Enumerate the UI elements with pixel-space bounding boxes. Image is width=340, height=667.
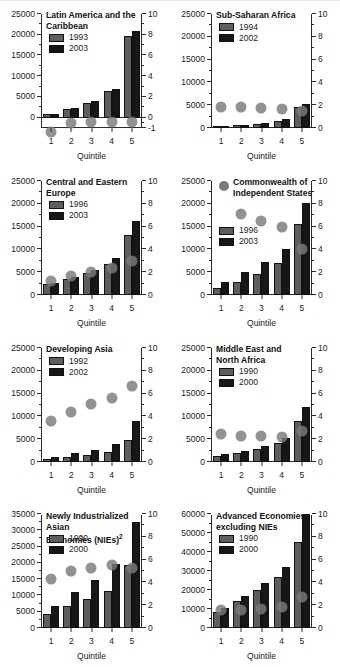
bar (83, 599, 91, 628)
right-y-tick-label: 4 (148, 72, 153, 81)
right-y-tick-label: 0 (318, 624, 323, 633)
x-tick (131, 128, 132, 132)
x-axis-title: Quintile (211, 652, 312, 661)
bar-group (83, 4, 99, 128)
right-y-tick-label: 2 (318, 268, 323, 277)
right-y-tick-minor (142, 358, 144, 359)
x-tick (131, 628, 132, 632)
x-tick (241, 628, 242, 632)
y-tick-label: 0 (200, 124, 205, 133)
x-tick-label: 1 (41, 637, 61, 646)
bar (91, 101, 99, 118)
bar (104, 91, 112, 118)
bar-group (104, 515, 120, 628)
y-tick-label: 20000 (181, 200, 205, 209)
right-y-tick-label: 6 (318, 222, 323, 231)
bar-groups (211, 181, 312, 295)
x-tick-label: 3 (251, 304, 271, 313)
x-tick-label: 4 (102, 137, 122, 146)
x-axis-title: Quintile (211, 319, 312, 328)
ratio-dot-marker (86, 267, 97, 278)
x-tick-label: 5 (292, 137, 312, 146)
x-tick (241, 295, 242, 299)
chart-panel: Central and EasternEurope199620030500010… (0, 167, 170, 334)
ratio-dot-marker (66, 270, 77, 281)
right-y-tick-label: 2 (148, 93, 153, 102)
right-y-tick-label: 6 (148, 51, 153, 60)
right-y-tick-minor (142, 593, 144, 594)
x-tick-labels: 12345 (211, 304, 312, 313)
right-y-tick-minor (142, 44, 144, 45)
ratio-dot-marker (66, 406, 77, 417)
x-tick (301, 628, 302, 632)
x-axis-title: Quintile (211, 152, 312, 161)
bar-group (233, 515, 249, 628)
x-tick (261, 462, 262, 466)
right-y-tick-major (142, 347, 146, 348)
right-y-tick-major (142, 438, 146, 439)
ratio-dot-marker (236, 102, 247, 113)
bar-group (253, 181, 269, 295)
right-y-tick-label: 2 (318, 435, 323, 444)
y-tick-label: 10000 (11, 412, 35, 421)
right-y-tick-major (312, 415, 316, 416)
right-y-tick-minor (142, 450, 144, 451)
right-y-tick-minor (312, 570, 314, 571)
y-tick-label: 25000 (181, 10, 205, 19)
right-y-tick-major (142, 604, 146, 605)
bar (233, 282, 241, 295)
right-y-tick-major (312, 13, 316, 14)
bar-group (233, 14, 249, 128)
bar (124, 440, 132, 462)
x-tick-label: 2 (231, 637, 251, 646)
bar (241, 125, 249, 128)
bar (43, 114, 51, 117)
x-tick-label: 1 (41, 471, 61, 480)
right-y-tick-major (142, 393, 146, 394)
y-tick-label: 10000 (181, 78, 205, 87)
x-tick (71, 128, 72, 132)
y-tick-label: 10000 (181, 605, 205, 614)
bar (221, 454, 229, 462)
right-y-tick-label: -1 (148, 124, 156, 133)
bar (71, 108, 79, 118)
bar (112, 89, 120, 118)
ratio-dot-marker (256, 603, 267, 614)
ratio-dot-marker (86, 398, 97, 409)
right-y-tick-label: 10 (148, 510, 157, 519)
y-tick-label: 30000 (11, 526, 35, 535)
bar-group (294, 515, 310, 628)
x-axis-title: Quintile (41, 486, 142, 495)
right-y-tick-label: 6 (148, 222, 153, 231)
bar-groups (41, 515, 142, 628)
bar (51, 606, 59, 628)
right-y-tick-minor (142, 237, 144, 238)
right-y-tick-minor (312, 116, 314, 117)
bar (63, 606, 71, 628)
y-tick-label: 5000 (16, 268, 35, 277)
right-y-tick-minor (142, 214, 144, 215)
x-tick (91, 295, 92, 299)
y-tick-label: 20000 (11, 559, 35, 568)
y-tick-label: 10000 (11, 591, 35, 600)
bar (274, 443, 282, 462)
bar (294, 542, 302, 628)
bar (274, 121, 282, 128)
chart-panel: Commonwealth ofIndependent States1996200… (170, 167, 340, 334)
right-y-tick-label: 4 (318, 578, 323, 587)
y-tick-label: 15000 (181, 55, 205, 64)
bar-group (83, 515, 99, 628)
right-y-tick-major (312, 627, 316, 628)
ratio-dot-marker (276, 431, 287, 442)
x-tick-label: 1 (211, 137, 231, 146)
right-y-tick-major (142, 117, 146, 118)
x-tick-label: 3 (81, 637, 101, 646)
ratio-dot-marker (86, 116, 97, 127)
x-tick (221, 462, 222, 466)
right-y-tick-major (142, 180, 146, 181)
bar (83, 455, 91, 462)
ratio-dot-marker (236, 430, 247, 441)
x-tick (241, 128, 242, 132)
bar-group (253, 515, 269, 628)
x-tick (51, 295, 52, 299)
